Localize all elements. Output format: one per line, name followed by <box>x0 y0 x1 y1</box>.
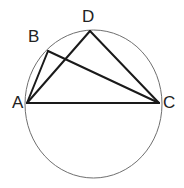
vertex-label-c: C <box>163 94 175 111</box>
vertex-label-a: A <box>12 94 23 111</box>
vertex-label-b: B <box>28 28 39 45</box>
geometry-figure: A B C D <box>0 0 184 188</box>
segment-d-c <box>90 31 159 103</box>
segment-a-b <box>27 51 48 103</box>
segment-b-c <box>48 51 159 103</box>
vertex-label-d: D <box>82 8 94 25</box>
